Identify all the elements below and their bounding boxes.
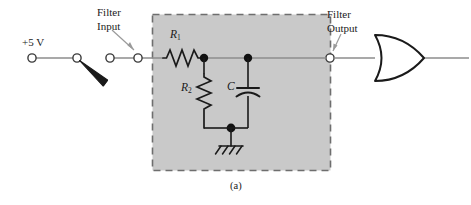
resistor-r1-symbol: R: [170, 28, 177, 40]
schematic-canvas: [0, 0, 471, 205]
resistor-r1-subscript: 1: [177, 33, 181, 42]
spst-switch-blade[interactable]: [80, 61, 108, 87]
resistor-r1-label: R1: [170, 28, 181, 41]
capacitor-c-label: C: [227, 80, 235, 93]
figure-circuit-diagram: +5 V Filter Input Filter Output R1 R2 C …: [0, 0, 471, 205]
or-gate[interactable]: [375, 35, 424, 81]
supply-terminal[interactable]: [28, 54, 36, 62]
or-gate-body: [375, 35, 424, 81]
filter-input-annotation-line2: Input: [97, 20, 120, 32]
leader-arrow-filter-output: [333, 44, 338, 52]
filter-input-terminal[interactable]: [134, 54, 142, 62]
capacitor-c-symbol: C: [227, 80, 235, 92]
resistor-r2-label: R2: [181, 81, 192, 94]
resistor-r2-symbol: R: [181, 81, 188, 93]
filter-output-annotation-line1: Filter: [327, 8, 351, 20]
resistor-r2-subscript: 2: [188, 86, 192, 95]
supply-voltage-label: +5 V: [22, 36, 44, 48]
filter-output-terminal[interactable]: [326, 54, 334, 62]
figure-caption: (a): [230, 180, 242, 192]
switch-blade-body: [80, 61, 108, 87]
filter-output-annotation-line2: Output: [327, 22, 358, 34]
leader-arrow-filter-input: [128, 42, 135, 50]
switch-throw-terminal[interactable]: [106, 54, 114, 62]
filter-input-annotation-line1: Filter: [97, 6, 121, 18]
